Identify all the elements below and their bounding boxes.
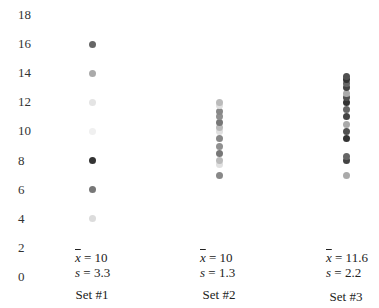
data-point <box>216 119 223 126</box>
set1-sd-label: s = 3.3 <box>75 265 110 280</box>
set3-mean-label: x = 11.6 <box>326 250 368 265</box>
data-point <box>89 99 96 106</box>
data-point <box>343 121 350 128</box>
mean-symbol: x <box>326 250 332 265</box>
y-tick-label: 0 <box>18 270 38 284</box>
y-tick-label: 6 <box>18 183 38 197</box>
y-tick-label: 18 <box>18 8 38 22</box>
set2-mean-label: x = 10 <box>200 250 233 265</box>
sd-symbol: s <box>326 265 331 280</box>
data-point <box>89 70 96 77</box>
set3-sd-label: s = 2.2 <box>326 265 361 280</box>
data-point <box>216 143 223 150</box>
data-point <box>343 135 350 142</box>
y-tick-label: 16 <box>18 37 38 51</box>
y-tick-label: 14 <box>18 66 38 80</box>
sd-symbol: s <box>75 265 80 280</box>
data-point <box>343 90 350 97</box>
y-tick-label: 4 <box>18 212 38 226</box>
set2-category-label: Set #2 <box>189 287 249 302</box>
mean-value: = 11.6 <box>335 250 368 265</box>
data-point <box>343 128 350 135</box>
data-point <box>89 157 96 164</box>
set1-mean-label: x = 10 <box>75 250 108 265</box>
data-point <box>89 186 96 193</box>
sd-value: = 1.3 <box>208 265 235 280</box>
set3-category-label: Set #3 <box>316 289 376 304</box>
data-point <box>343 73 350 80</box>
data-point <box>89 215 96 222</box>
mean-value: = 10 <box>84 250 108 265</box>
set1-category-label: Set #1 <box>62 287 122 302</box>
data-point <box>216 99 223 106</box>
dot-strip-chart: 181614121086420 x = 10 s = 3.3 Set #1 x … <box>0 0 379 308</box>
data-point <box>343 172 350 179</box>
data-point <box>343 106 350 113</box>
data-point <box>89 41 96 48</box>
sd-value: = 3.3 <box>83 265 110 280</box>
data-point <box>216 172 223 179</box>
data-point <box>343 113 350 120</box>
sd-symbol: s <box>200 265 205 280</box>
data-point <box>343 153 350 160</box>
y-tick-label: 2 <box>18 241 38 255</box>
set2-sd-label: s = 1.3 <box>200 265 235 280</box>
mean-symbol: x <box>75 250 81 265</box>
data-point <box>89 128 96 135</box>
data-point <box>216 135 223 142</box>
y-tick-label: 10 <box>18 124 38 138</box>
y-tick-label: 12 <box>18 95 38 109</box>
data-point <box>216 157 223 164</box>
sd-value: = 2.2 <box>334 265 361 280</box>
mean-value: = 10 <box>209 250 233 265</box>
mean-symbol: x <box>200 250 206 265</box>
data-point <box>216 150 223 157</box>
y-tick-label: 8 <box>18 154 38 168</box>
